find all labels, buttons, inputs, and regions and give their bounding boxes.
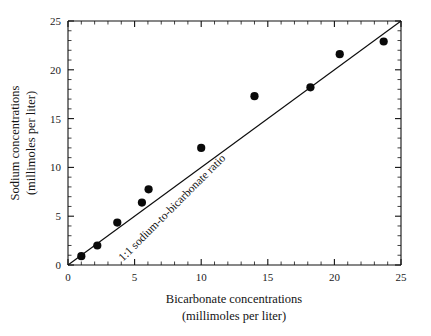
data-point-6 <box>250 92 258 100</box>
x-axis-title: Bicarbonate concentrations (millimoles p… <box>166 292 303 323</box>
data-point-8 <box>336 50 344 58</box>
x-tick-label-0: 0 <box>65 271 71 283</box>
data-point-1 <box>93 241 101 249</box>
reference-line-annotation: 1:1 sodium-to-bicarbonate ratio <box>116 152 228 264</box>
one-to-one-reference-line <box>68 21 401 265</box>
data-point-4 <box>144 185 152 193</box>
y-tick-label-20: 20 <box>50 64 62 76</box>
data-point-2 <box>113 218 121 226</box>
y-axis-title: Sodium concentrations (millimoles per li… <box>8 85 38 200</box>
x-tick-label-10: 10 <box>196 271 208 283</box>
data-point-3 <box>138 198 146 206</box>
scatter-points <box>77 37 388 260</box>
data-point-9 <box>380 37 388 45</box>
data-point-7 <box>306 83 314 91</box>
x-tick-label-25: 25 <box>396 271 408 283</box>
reference-line-group <box>68 21 401 265</box>
y-tick-label-10: 10 <box>50 161 62 173</box>
y-axis-title-line-2: (millimoles per liter) <box>24 91 38 195</box>
y-tick-label-0: 0 <box>56 259 62 271</box>
y-axis-title-line-1: Sodium concentrations <box>8 85 22 200</box>
y-tick-label-15: 15 <box>50 113 62 125</box>
data-point-5 <box>197 144 205 152</box>
scatter-chart-figure: 05101520250510152025 1:1 sodium-to-bicar… <box>0 0 431 336</box>
y-tick-label-5: 5 <box>56 210 62 222</box>
x-axis-title-line-1: Bicarbonate concentrations <box>166 292 303 306</box>
x-axis-title-line-2: (millimoles per liter) <box>182 309 286 323</box>
x-tick-label-15: 15 <box>262 271 274 283</box>
data-point-0 <box>77 252 85 260</box>
x-tick-label-5: 5 <box>132 271 138 283</box>
y-tick-label-25: 25 <box>50 15 62 27</box>
reference-line-label: 1:1 sodium-to-bicarbonate ratio <box>116 152 228 264</box>
plot-canvas: 05101520250510152025 1:1 sodium-to-bicar… <box>0 0 431 336</box>
x-tick-label-20: 20 <box>329 271 341 283</box>
